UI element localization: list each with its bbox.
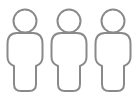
person-icon bbox=[88, 0, 138, 99]
person-icon bbox=[0, 0, 50, 99]
person-icon bbox=[44, 0, 94, 99]
people-group bbox=[0, 0, 140, 99]
